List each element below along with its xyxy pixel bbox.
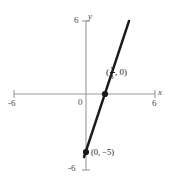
plotted-line <box>84 21 129 157</box>
y-intercept-point <box>83 149 89 155</box>
x-intercept-label: (53, 0) <box>106 66 127 80</box>
y-intercept-label: (0, −5) <box>91 148 114 157</box>
graph-figure: y x 6 -6 -6 6 0 (53, 0) (0, −5) <box>0 0 169 179</box>
x-tick-label-left: -6 <box>8 99 16 108</box>
fraction-numerator: 5 <box>110 66 115 72</box>
y-tick-label-top: 6 <box>74 16 79 25</box>
x-intercept-label-rest: , 0) <box>115 67 127 77</box>
coordinate-plane-svg <box>0 0 169 179</box>
y-tick-label-bottom: -6 <box>68 164 76 173</box>
fraction-denominator: 3 <box>110 74 115 80</box>
x-intercept-fraction: 53 <box>110 66 115 80</box>
x-axis-label: x <box>158 88 162 97</box>
origin-label: 0 <box>78 98 83 107</box>
x-intercept-point <box>102 91 108 97</box>
x-tick-label-right: 6 <box>152 99 157 108</box>
y-axis-label: y <box>88 12 92 21</box>
